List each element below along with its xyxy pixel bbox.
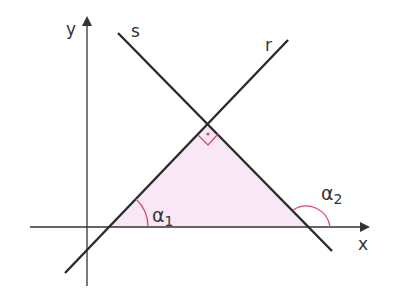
alpha2-label: α2 [321,182,342,207]
line-r [65,40,288,273]
line-s-label: s [131,21,140,41]
y-axis-label: y [66,19,76,39]
x-axis-label: x [358,234,368,254]
line-r-label: r [265,35,272,55]
geometry-diagram: y x s r α1 α2 [0,0,400,298]
right-angle-dot [206,132,209,135]
shaded-triangle [110,124,310,227]
